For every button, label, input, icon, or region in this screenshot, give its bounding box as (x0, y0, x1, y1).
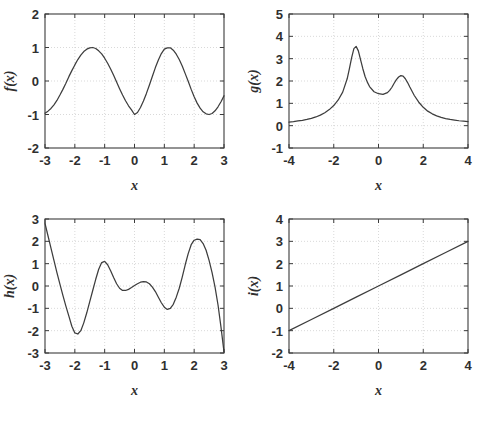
panel-g-svg: -4-2024-1012345xg(x) (244, 0, 483, 205)
panel-g-ytick-0: -1 (271, 141, 283, 156)
panel-h-ytick-6: 3 (32, 212, 39, 227)
plot-panel-g: -4-2024-1012345xg(x) (244, 0, 483, 205)
figure-four-plots: -3-2-10123-2-1012xf(x) -4-2024-1012345xg… (0, 0, 483, 425)
panel-f-xtick-labels: -3-2-10123 (39, 153, 227, 168)
panel-g-ytick-4: 3 (276, 52, 283, 67)
panel-g-ytick-2: 1 (276, 96, 283, 111)
panel-g-ytick-labels: -1012345 (271, 7, 283, 156)
panel-f-ytick-1: -1 (27, 108, 39, 123)
panel-i-yaxis-label: i(x) (246, 276, 262, 296)
panel-f-xtick-6: 3 (220, 153, 227, 168)
panel-i-xaxis-label: x (374, 383, 382, 398)
panel-i-xtick-4: 4 (464, 358, 472, 373)
panel-f-xtick-3: 0 (131, 153, 138, 168)
panel-g-xtick-1: -2 (328, 153, 340, 168)
panel-i-svg: -4-2024-2-101234xi(x) (244, 205, 483, 410)
plot-panel-f: -3-2-10123-2-1012xf(x) (0, 0, 239, 205)
panel-f-yaxis-label: f(x) (2, 71, 18, 92)
panel-g-xtick-3: 2 (420, 153, 427, 168)
panel-h-ytick-3: 0 (32, 279, 39, 294)
panel-i-line-0 (289, 241, 468, 330)
panel-g-ytick-1: 0 (276, 119, 283, 134)
panel-h-yaxis-label: h(x) (2, 274, 18, 298)
panel-i-ytick-1: -1 (271, 324, 283, 339)
panel-h-ytick-4: 1 (32, 257, 39, 272)
panel-g-xaxis-label: x (374, 178, 382, 193)
panel-i-xtick-2: 0 (375, 358, 382, 373)
panel-f-xaxis-label: x (130, 178, 138, 193)
panel-h-ytick-labels: -3-2-10123 (27, 212, 39, 361)
panel-f-xtick-5: 2 (191, 153, 198, 168)
panel-f-xtick-4: 1 (161, 153, 168, 168)
panel-h-series (45, 223, 224, 351)
panel-h-xtick-6: 3 (220, 358, 227, 373)
panel-i-xtick-0: -4 (283, 358, 295, 373)
panel-h-svg: -3-2-10123-3-2-10123xh(x) (0, 205, 239, 410)
plot-panel-h: -3-2-10123-3-2-10123xh(x) (0, 205, 239, 410)
panel-f-svg: -3-2-10123-2-1012xf(x) (0, 0, 239, 205)
panel-f-ytick-2: 0 (32, 74, 39, 89)
panel-f-ytick-0: -2 (27, 141, 39, 156)
panel-g-ytick-3: 2 (276, 74, 283, 89)
panel-f-xtick-0: -3 (39, 153, 51, 168)
panel-g-ytick-5: 4 (276, 29, 284, 44)
panel-i-ytick-5: 3 (276, 234, 283, 249)
panel-i-series (289, 241, 468, 330)
panel-f-xtick-1: -2 (69, 153, 81, 168)
panel-h-xaxis-label: x (130, 383, 138, 398)
panel-g-xtick-labels: -4-2024 (283, 153, 472, 168)
panel-h-xtick-labels: -3-2-10123 (39, 358, 227, 373)
plot-panel-i: -4-2024-2-101234xi(x) (244, 205, 483, 410)
panel-i-ytick-2: 0 (276, 301, 283, 316)
panel-g-xtick-2: 0 (375, 153, 382, 168)
panel-h-xtick-2: -1 (99, 358, 111, 373)
panel-i-xtick-labels: -4-2024 (283, 358, 472, 373)
panel-h-line-0 (45, 223, 224, 351)
panel-f-xtick-2: -1 (99, 153, 111, 168)
panel-g-xtick-0: -4 (283, 153, 295, 168)
panel-h-xtick-0: -3 (39, 358, 51, 373)
panel-h-xtick-5: 2 (191, 358, 198, 373)
panel-h-xtick-4: 1 (161, 358, 168, 373)
panel-i-ytick-4: 2 (276, 257, 283, 272)
panel-i-xtick-1: -2 (328, 358, 340, 373)
panel-h-ytick-0: -3 (27, 346, 39, 361)
panel-f-gridlines (45, 14, 224, 148)
panel-h-ytick-1: -2 (27, 324, 39, 339)
panel-h-ytick-5: 2 (32, 234, 39, 249)
panel-g-xtick-4: 4 (464, 153, 472, 168)
panel-i-ytick-labels: -2-101234 (271, 212, 283, 361)
panel-i-ytick-6: 4 (276, 212, 284, 227)
panel-i-xtick-3: 2 (420, 358, 427, 373)
panel-i-ytick-3: 1 (276, 279, 283, 294)
panel-h-xtick-1: -2 (69, 358, 81, 373)
panel-f-ytick-labels: -2-1012 (27, 7, 39, 156)
panel-g-yaxis-label: g(x) (246, 69, 262, 93)
panel-f-ytick-4: 2 (32, 7, 39, 22)
panel-h-xtick-3: 0 (131, 358, 138, 373)
panel-i-ytick-0: -2 (271, 346, 283, 361)
panel-h-ytick-2: -1 (27, 301, 39, 316)
panel-g-gridlines (289, 14, 468, 148)
panel-f-ytick-3: 1 (32, 41, 39, 56)
panel-g-ytick-6: 5 (276, 7, 283, 22)
